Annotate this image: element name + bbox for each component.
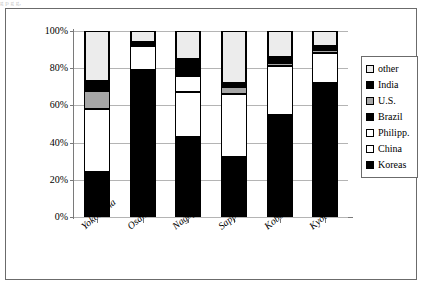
legend-swatch-icon xyxy=(366,113,374,121)
legend-item-other[interactable]: other xyxy=(366,61,414,77)
bar-nagoya[interactable] xyxy=(175,31,201,217)
gridline xyxy=(74,180,348,181)
bar-segment-china[interactable] xyxy=(176,92,200,137)
plot-area xyxy=(74,31,348,217)
bar-segment-us[interactable] xyxy=(85,91,109,110)
bar-segment-philipp[interactable] xyxy=(176,76,200,93)
legend-item-china[interactable]: China xyxy=(366,141,414,157)
chart-legend: otherIndiaU.S.BrazilPhilipp.ChinaKoreas xyxy=(361,56,418,178)
bar-segment-india[interactable] xyxy=(85,81,109,90)
legend-swatch-icon xyxy=(366,161,374,169)
y-axis-tick-label: 100% xyxy=(28,26,68,36)
bar-osaka[interactable] xyxy=(130,31,156,217)
y-axis-tick-label: 0% xyxy=(28,212,68,222)
legend-item-koreas[interactable]: Koreas xyxy=(366,157,414,173)
bar-segment-other[interactable] xyxy=(222,31,246,83)
bar-segment-other[interactable] xyxy=(85,31,109,81)
x-axis-labels: YokohamaOsakaNagoyaSapporoKobeKyoto xyxy=(74,219,354,279)
bar-segment-other[interactable] xyxy=(176,31,200,59)
bar-kyoto[interactable] xyxy=(312,31,338,217)
bar-segment-india[interactable] xyxy=(268,57,292,63)
gridline xyxy=(74,68,348,69)
bar-segment-koreas[interactable] xyxy=(131,70,155,217)
chart-frame: 0%20%40%60%80%100% YokohamaOsakaNagoyaSa… xyxy=(5,8,417,280)
legend-swatch-icon xyxy=(366,129,374,137)
bar-yokohama[interactable] xyxy=(84,31,110,217)
bar-segment-india[interactable] xyxy=(313,46,337,50)
bar-segment-other[interactable] xyxy=(268,31,292,57)
y-axis-tick xyxy=(70,68,74,69)
bar-segment-china[interactable] xyxy=(268,66,292,114)
legend-swatch-icon xyxy=(366,145,374,153)
bar-segment-china[interactable] xyxy=(131,46,155,70)
legend-swatch-icon xyxy=(366,81,374,89)
bar-segment-china[interactable] xyxy=(313,53,337,83)
bar-segment-india[interactable] xyxy=(176,59,200,76)
gridline xyxy=(74,105,348,106)
y-axis-tick xyxy=(70,143,74,144)
legend-label: U.S. xyxy=(378,96,396,106)
bar-segment-us[interactable] xyxy=(313,50,337,54)
legend-item-philipp[interactable]: Philipp. xyxy=(366,125,414,141)
y-axis-tick-label: 20% xyxy=(28,175,68,185)
y-axis-tick-label: 60% xyxy=(28,100,68,110)
bar-segment-us[interactable] xyxy=(268,63,292,67)
bar-segment-india[interactable] xyxy=(131,42,155,46)
bar-segment-koreas[interactable] xyxy=(313,83,337,217)
legend-label: other xyxy=(378,64,399,74)
legend-item-us[interactable]: U.S. xyxy=(366,93,414,109)
legend-item-brazil[interactable]: Brazil xyxy=(366,109,414,125)
bar-segment-other[interactable] xyxy=(313,31,337,46)
gridline xyxy=(74,31,348,32)
chart-stage: g p g g, 0%20%40%60%80%100% YokohamaOsak… xyxy=(0,0,424,286)
bar-segment-other[interactable] xyxy=(131,31,155,42)
bar-sapporo[interactable] xyxy=(221,31,247,217)
legend-label: Koreas xyxy=(378,160,406,170)
gridline xyxy=(74,217,348,218)
y-axis-tick xyxy=(70,217,74,218)
y-axis-tick-label: 80% xyxy=(28,63,68,73)
legend-item-india[interactable]: India xyxy=(366,77,414,93)
y-axis-tick-label: 40% xyxy=(28,138,68,148)
y-axis-tick xyxy=(70,31,74,32)
legend-label: India xyxy=(378,80,399,90)
bar-kobe[interactable] xyxy=(267,31,293,217)
y-axis-tick xyxy=(70,105,74,106)
bar-segment-koreas[interactable] xyxy=(176,137,200,217)
legend-swatch-icon xyxy=(366,97,374,105)
legend-swatch-icon xyxy=(366,65,374,73)
scan-artifact-text: g p g g, xyxy=(0,0,424,7)
legend-label: China xyxy=(378,144,402,154)
bar-segment-koreas[interactable] xyxy=(268,115,292,217)
bar-segment-china[interactable] xyxy=(222,94,246,157)
legend-label: Philipp. xyxy=(378,128,409,138)
bar-segment-india[interactable] xyxy=(222,83,246,87)
bar-segment-us[interactable] xyxy=(222,87,246,94)
bar-segment-china[interactable] xyxy=(85,109,109,172)
gridline xyxy=(74,143,348,144)
y-axis-tick xyxy=(70,180,74,181)
legend-label: Brazil xyxy=(378,112,402,122)
